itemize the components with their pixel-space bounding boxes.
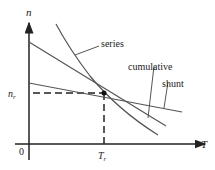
series-leader — [75, 46, 99, 55]
operating-point — [102, 91, 107, 96]
origin-label: 0 — [19, 146, 24, 157]
series-label: series — [101, 38, 124, 49]
torque-speed-diagram: n T 0 nr Tr series cumulative shunt — [0, 0, 215, 170]
x-axis-label: T — [201, 138, 208, 150]
shunt-label: shunt — [162, 78, 184, 89]
y-axis-label: n — [26, 6, 32, 18]
operating-torque-label: Tr — [98, 150, 107, 163]
cumulative-label: cumulative — [128, 61, 173, 72]
cumulative-leader — [148, 66, 154, 118]
operating-speed-label: nr — [8, 88, 16, 101]
shunt-curve — [29, 83, 182, 112]
